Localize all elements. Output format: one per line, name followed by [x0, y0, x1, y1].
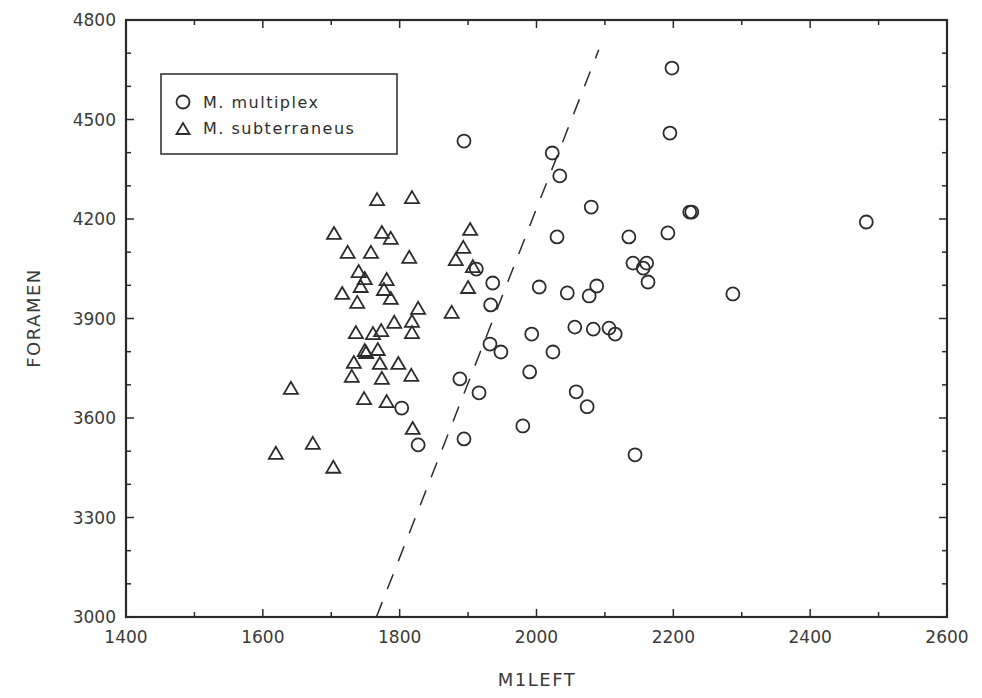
triangle-marker-icon: [341, 246, 355, 258]
circle-marker-icon: [585, 201, 598, 214]
triangle-marker-icon: [349, 326, 363, 338]
y-tick-label: 3000: [73, 607, 116, 627]
triangle-marker-icon: [335, 287, 349, 299]
circle-marker-icon: [551, 230, 564, 243]
x-tick-label: 2000: [515, 627, 558, 647]
dashed-line: [376, 50, 598, 617]
circle-marker-icon: [546, 146, 559, 159]
x-tick-label: 2400: [789, 627, 832, 647]
triangle-marker-icon: [449, 253, 463, 265]
y-tick-label: 3300: [73, 508, 116, 528]
x-tick-label: 1400: [104, 627, 147, 647]
circle-marker-icon: [494, 345, 507, 358]
y-axis-title: FORAMEN: [23, 268, 44, 367]
circle-marker-icon: [661, 226, 674, 239]
y-tick-label: 4500: [73, 110, 116, 130]
circle-marker-icon: [629, 448, 642, 461]
x-axis-title: M1LEFT: [498, 669, 576, 690]
y-tick-label: 4800: [73, 10, 116, 30]
legend: M. multiplex M. subterraneus: [161, 74, 397, 154]
triangle-marker-icon: [350, 296, 364, 308]
triangle-marker-icon: [269, 447, 283, 459]
triangle-marker-icon: [402, 251, 416, 263]
triangle-marker-icon: [391, 357, 405, 369]
circle-marker-icon: [516, 419, 529, 432]
triangle-marker-icon: [463, 223, 477, 235]
circle-marker-icon: [523, 365, 536, 378]
triangle-marker-icon: [364, 246, 378, 258]
legend-box: [161, 74, 397, 154]
circle-marker-icon: [457, 432, 470, 445]
circle-marker-icon: [533, 280, 546, 293]
circle-marker-icon: [553, 169, 566, 182]
circle-marker-icon: [570, 385, 583, 398]
triangle-marker-icon: [327, 227, 341, 239]
triangle-marker-icon: [375, 226, 389, 238]
triangle-marker-icon: [357, 392, 371, 404]
circle-marker-icon: [583, 289, 596, 302]
triangle-marker-icon: [373, 357, 387, 369]
circle-marker-icon: [665, 62, 678, 75]
circle-marker-icon: [457, 135, 470, 148]
triangle-marker-icon: [380, 273, 394, 285]
legend-label-multiplex: M. multiplex: [203, 93, 320, 112]
triangle-marker-icon: [345, 370, 359, 382]
circle-marker-icon: [484, 298, 497, 311]
triangle-marker-icon: [370, 193, 384, 205]
circle-marker-icon: [395, 402, 408, 415]
y-tick-label: 4200: [73, 209, 116, 229]
x-tick-label: 2600: [925, 627, 968, 647]
triangle-marker-icon: [380, 395, 394, 407]
triangle-marker-icon: [354, 280, 368, 292]
x-tick-label: 2200: [652, 627, 695, 647]
triangle-marker-icon: [461, 281, 475, 293]
circle-marker-icon: [587, 323, 600, 336]
triangle-marker-icon: [445, 306, 459, 318]
circle-marker-icon: [663, 127, 676, 140]
triangle-marker-icon: [371, 343, 385, 355]
scatter-chart: 1400160018002000220024002600300033003600…: [0, 0, 982, 698]
discriminant-dashed-line: [376, 50, 598, 617]
circle-marker-icon: [561, 286, 574, 299]
triangle-marker-icon: [456, 241, 470, 253]
legend-label-subterraneus: M. subterraneus: [203, 119, 355, 138]
circle-marker-icon: [453, 372, 466, 385]
circle-marker-icon: [581, 400, 594, 413]
circle-marker-icon: [622, 230, 635, 243]
y-tick-label: 3900: [73, 309, 116, 329]
triangle-marker-icon: [387, 316, 401, 328]
triangle-marker-icon: [405, 326, 419, 338]
circle-marker-icon: [525, 328, 538, 341]
triangle-marker-icon: [404, 369, 418, 381]
circle-marker-icon: [412, 438, 425, 451]
circle-marker-icon: [726, 287, 739, 300]
circle-marker-icon: [486, 277, 499, 290]
triangle-marker-icon: [405, 191, 419, 203]
circle-marker-icon: [473, 386, 486, 399]
triangle-marker-icon: [284, 382, 298, 394]
circle-marker-icon: [546, 345, 559, 358]
x-tick-label: 1600: [241, 627, 284, 647]
x-tick-label: 1800: [378, 627, 421, 647]
circle-marker-icon: [860, 215, 873, 228]
triangle-marker-icon: [406, 422, 420, 434]
triangle-marker-icon: [326, 461, 340, 473]
triangle-marker-icon: [375, 372, 389, 384]
y-tick-label: 3600: [73, 408, 116, 428]
circle-marker-icon: [642, 276, 655, 289]
circle-marker-icon: [568, 321, 581, 334]
triangle-marker-icon: [411, 302, 425, 314]
triangle-marker-icon: [306, 437, 320, 449]
